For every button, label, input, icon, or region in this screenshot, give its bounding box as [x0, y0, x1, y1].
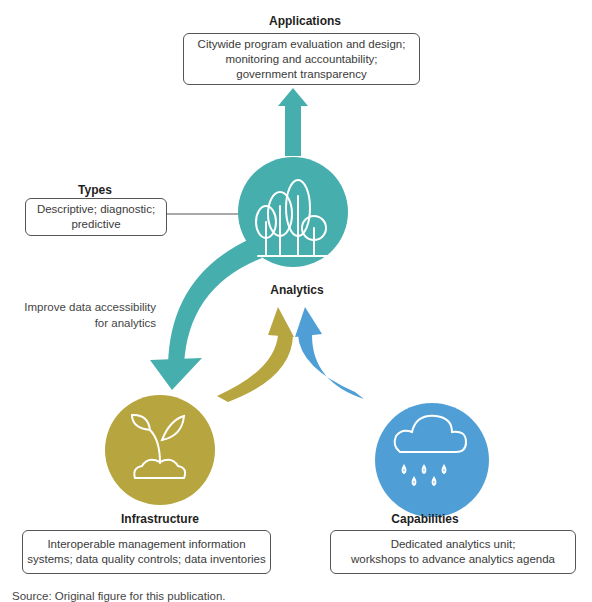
capabilities-circle [375, 403, 489, 517]
infrastructure-box: Interoperable management information sys… [22, 530, 271, 574]
arrow-note-line-1: Improve data accessibility [10, 299, 156, 315]
types-box: Descriptive; diagnostic; predictive [25, 198, 167, 236]
applications-heading: Applications [230, 14, 380, 28]
applications-box: Citywide program evaluation and design; … [183, 33, 420, 85]
infrastructure-line-2: systems; data quality controls; data inv… [23, 552, 270, 567]
applications-line-2: monitoring and accountability; [184, 52, 419, 67]
infrastructure-circle [105, 395, 215, 505]
applications-line-3: government transparency [184, 67, 419, 82]
arrow-note: Improve data accessibility for analytics [10, 299, 156, 331]
types-line-1: Descriptive; diagnostic; [26, 202, 166, 217]
up-arrow-to-applications [278, 88, 308, 156]
analytics-circle [238, 157, 348, 267]
capabilities-line-1: Dedicated analytics unit; [331, 537, 575, 552]
capabilities-box: Dedicated analytics unit; workshops to a… [330, 530, 576, 574]
teal-curved-arrow [150, 238, 262, 390]
infrastructure-line-1: Interoperable management information [23, 537, 270, 552]
infrastructure-heading: Infrastructure [110, 512, 210, 526]
blue-curved-arrow [295, 307, 364, 399]
capabilities-heading: Capabilities [365, 512, 485, 526]
arrow-note-line-2: for analytics [10, 315, 156, 331]
capabilities-line-2: workshops to advance analytics agenda [331, 552, 575, 567]
applications-line-1: Citywide program evaluation and design; [184, 37, 419, 52]
analytics-label: Analytics [260, 283, 334, 297]
source-note: Source: Original figure for this publica… [12, 590, 412, 602]
types-line-2: predictive [26, 217, 166, 232]
olive-curved-arrow [217, 307, 294, 402]
types-heading: Types [55, 183, 135, 197]
